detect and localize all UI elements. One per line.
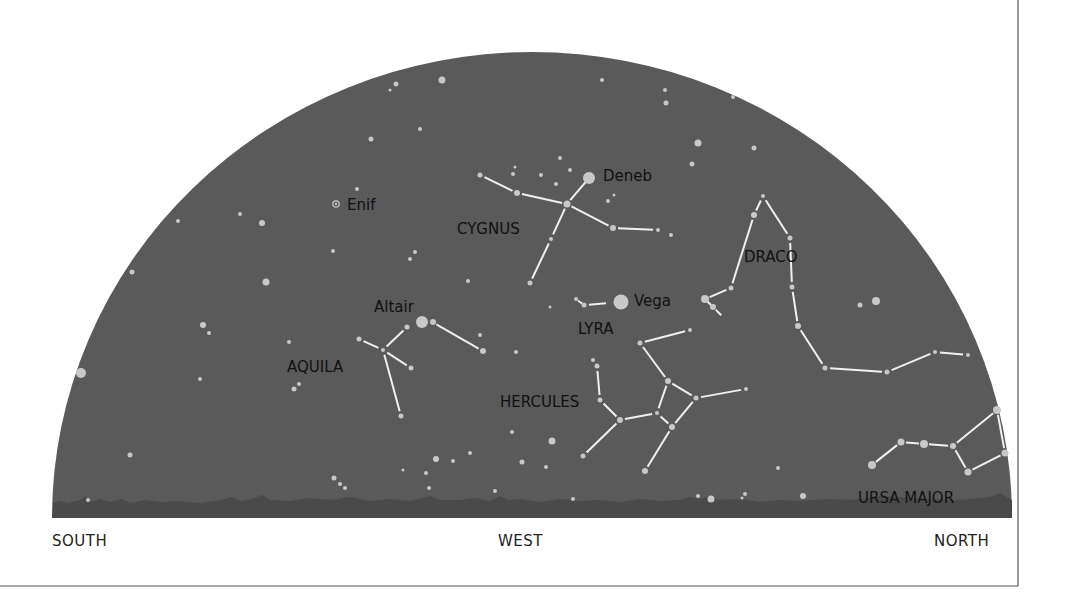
star: [408, 257, 412, 261]
sky-dome: [52, 52, 1012, 518]
star: [696, 494, 700, 498]
star: [710, 304, 716, 310]
star: [665, 378, 671, 384]
compass-south: SOUTH: [52, 532, 107, 550]
star: [600, 78, 604, 82]
constellation-line: [929, 444, 948, 445]
star: [743, 492, 747, 496]
star: [332, 476, 337, 481]
star: [381, 348, 385, 352]
star: [439, 77, 446, 84]
star: [933, 350, 937, 354]
deneb-star: [583, 172, 595, 184]
star: [511, 172, 515, 176]
label-enif: Enif: [347, 196, 376, 214]
sky-map: Deneb Vega Altair Enif CYGNUS DRACO LYRA…: [0, 0, 1072, 594]
label-aquila: AQUILA: [287, 358, 344, 376]
label-ursa-major: URSA MAJOR: [858, 489, 954, 507]
star: [418, 127, 422, 131]
star: [655, 411, 659, 415]
label-altair: Altair: [374, 298, 415, 316]
star: [795, 323, 801, 329]
star: [200, 322, 206, 328]
star: [669, 233, 673, 237]
star: [263, 279, 270, 286]
star: [776, 466, 780, 470]
star: [369, 137, 374, 142]
enif-star-core: [335, 203, 337, 205]
star: [617, 417, 623, 423]
star: [128, 453, 133, 458]
star: [606, 199, 610, 203]
star: [663, 88, 667, 92]
star: [638, 341, 643, 346]
star: [514, 350, 518, 354]
star: [568, 168, 572, 172]
star: [868, 461, 876, 469]
star: [610, 225, 616, 231]
star: [478, 173, 483, 178]
star: [297, 382, 301, 386]
star: [389, 89, 392, 92]
star: [86, 498, 90, 502]
star: [413, 250, 417, 254]
star: [238, 212, 242, 216]
star: [656, 228, 660, 232]
star: [433, 456, 439, 462]
star: [424, 471, 428, 475]
star: [885, 370, 890, 375]
altair-star: [416, 316, 428, 328]
star: [394, 82, 399, 87]
star: [920, 440, 928, 448]
star: [950, 443, 956, 449]
star: [823, 366, 828, 371]
star: [1002, 450, 1009, 457]
compass-north: NORTH: [934, 532, 989, 550]
label-cygnus: CYGNUS: [457, 220, 520, 238]
star: [520, 460, 525, 465]
label-hercules: HERCULES: [500, 393, 579, 411]
star: [430, 319, 436, 325]
star: [741, 497, 744, 500]
star: [287, 340, 291, 344]
star: [695, 140, 702, 147]
star: [574, 297, 578, 301]
star: [898, 439, 905, 446]
star: [642, 468, 648, 474]
star: [872, 297, 880, 305]
star: [598, 398, 603, 403]
star: [571, 497, 575, 501]
star: [544, 465, 548, 469]
star: [752, 146, 757, 151]
star: [549, 438, 556, 445]
constellation-line: [589, 303, 606, 304]
compass-west: WEST: [498, 532, 543, 550]
star: [343, 486, 347, 490]
star: [539, 173, 543, 177]
star: [761, 194, 765, 198]
star: [708, 496, 715, 503]
star: [744, 387, 748, 391]
star: [694, 396, 699, 401]
star: [207, 331, 211, 335]
star: [554, 182, 558, 186]
star: [595, 364, 600, 369]
star: [478, 333, 482, 337]
star: [338, 482, 342, 486]
vega-star: [614, 295, 629, 310]
star: [788, 236, 793, 241]
star: [399, 414, 404, 419]
star: [292, 387, 297, 392]
star: [76, 368, 86, 378]
star: [664, 101, 669, 106]
star: [528, 281, 533, 286]
star: [549, 306, 552, 309]
star: [198, 377, 202, 381]
star: [582, 303, 587, 308]
star: [729, 286, 734, 291]
star: [510, 430, 514, 434]
star: [966, 353, 970, 357]
star: [402, 469, 405, 472]
constellation-line: [906, 442, 919, 443]
label-vega: Vega: [634, 292, 671, 310]
